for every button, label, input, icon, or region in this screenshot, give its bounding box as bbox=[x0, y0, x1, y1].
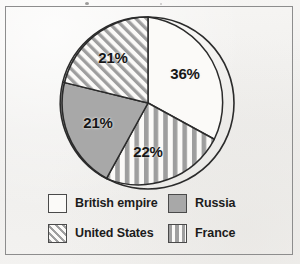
legend-swatch-solid-gray-icon bbox=[168, 194, 187, 213]
legend-row: British empire Russia bbox=[48, 192, 253, 214]
legend-label-british-empire: British empire bbox=[75, 196, 158, 210]
legend-item-russia: Russia bbox=[168, 192, 253, 214]
slice-label-british-empire: 36% bbox=[170, 65, 199, 82]
legend-label-united-states: United States bbox=[75, 226, 154, 240]
slice-label-united-states: 21% bbox=[98, 49, 127, 66]
legend-item-british-empire: British empire bbox=[48, 192, 168, 214]
slice-label-france: 22% bbox=[133, 143, 162, 160]
legend-swatch-white-icon bbox=[48, 194, 67, 213]
legend-label-france: France bbox=[195, 226, 235, 240]
legend-swatch-vertical-stripes-icon bbox=[168, 224, 187, 243]
legend-label-russia: Russia bbox=[195, 196, 235, 210]
chart-legend: British empire Russia United States Fran… bbox=[48, 192, 253, 246]
legend-item-france: France bbox=[168, 222, 253, 244]
legend-row: United States France bbox=[48, 222, 253, 244]
slice-label-russia: 21% bbox=[83, 114, 112, 131]
pie-chart-figure: 36% 22% 21% 21% British empire Russia Un… bbox=[0, 0, 300, 264]
legend-item-united-states: United States bbox=[48, 222, 168, 244]
legend-swatch-diagonal-hatch-icon bbox=[48, 224, 67, 243]
